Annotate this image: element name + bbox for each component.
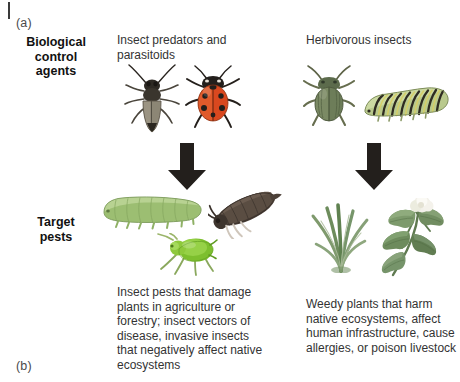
- leaf-beetle-illustration: [302, 64, 356, 132]
- swallowtail-caterpillar-illustration: [357, 80, 453, 128]
- column-header-herbivorous-insects: Herbivorous insects: [306, 33, 451, 48]
- row-label-line-1: Biological: [8, 35, 104, 50]
- row-label-line-1: Target: [8, 215, 104, 230]
- ladybug-illustration: [184, 65, 242, 135]
- caption-insect-pests: Insect pests that damage plants in agric…: [117, 285, 267, 373]
- moth-illustration: [208, 183, 286, 243]
- arrow-down-right: [352, 143, 396, 195]
- column-header-insect-predators: Insect predators and parasitoids: [117, 33, 247, 62]
- ground-beetle-illustration: [120, 63, 184, 139]
- biological-control-figure: (a) (b) Biological control agents Target…: [0, 0, 460, 382]
- caption-weedy-plants: Weedy plants that harm native ecosystems…: [306, 297, 458, 355]
- row-label-biological-control-agents: Biological control agents: [8, 35, 104, 79]
- grass-weed-illustration: [305, 203, 377, 277]
- panel-label-a: (a): [16, 16, 32, 30]
- aphid-illustration: [155, 233, 219, 283]
- broadleaf-weed-illustration: [375, 198, 453, 282]
- arrow-down-left: [165, 143, 209, 195]
- panel-label-b: (b): [16, 359, 32, 373]
- row-label-target-pests: Target pests: [8, 215, 104, 244]
- row-label-line-2: control: [8, 50, 104, 65]
- row-label-line-3: agents: [8, 64, 104, 79]
- caterpillar-illustration: [98, 192, 206, 236]
- row-label-line-2: pests: [8, 230, 104, 245]
- crop-mark: [8, 2, 10, 19]
